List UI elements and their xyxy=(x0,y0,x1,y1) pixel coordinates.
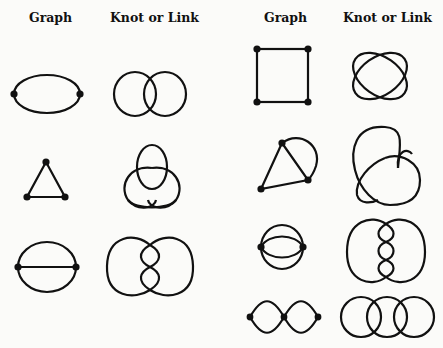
knot-two-lobe-twist xyxy=(107,238,193,296)
graph-digon-chain xyxy=(247,301,322,333)
graph-theta xyxy=(14,242,79,292)
knot-trefoil xyxy=(124,145,179,208)
graph-digon xyxy=(10,75,83,113)
graph-square xyxy=(253,45,311,105)
graph-triangle-arc xyxy=(257,138,317,192)
graph-multi-edge xyxy=(257,225,306,269)
knot-figure-eight xyxy=(353,127,420,205)
knot-hopf-link xyxy=(114,72,186,116)
graph-triangle xyxy=(23,158,68,200)
knot-interlaced-loops xyxy=(345,43,416,109)
knot-three-twist xyxy=(347,220,425,283)
figure-canvas xyxy=(0,0,443,348)
link-three-circles xyxy=(341,297,434,337)
